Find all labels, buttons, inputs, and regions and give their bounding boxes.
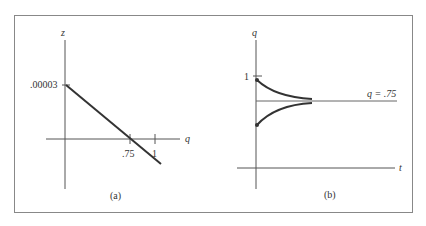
start-point-above	[255, 78, 259, 82]
figure: z q .00003 .75 1 (a) q t 1 q = .75 (b)	[0, 0, 426, 226]
z-line	[66, 85, 161, 164]
q-axis-label-b: q	[252, 27, 257, 38]
q-axis-label: q	[185, 133, 190, 144]
curve-from-above	[257, 80, 312, 99]
curve-from-below	[257, 103, 312, 125]
panel-a-caption: (a)	[110, 190, 121, 202]
start-point-below	[255, 123, 259, 127]
figure-frame	[15, 16, 413, 213]
panel-b: q t 1 q = .75 (b)	[237, 27, 402, 201]
q-tick-label-75: .75	[122, 148, 135, 159]
equilibrium-label: q = .75	[367, 88, 396, 99]
t-axis-label: t	[399, 162, 402, 173]
q-tick-label-1-b: 1	[244, 71, 249, 82]
panel-a: z q .00003 .75 1 (a)	[30, 27, 190, 202]
z-axis-label: z	[60, 27, 65, 38]
panel-b-caption: (b)	[324, 189, 336, 201]
z-tick-label: .00003	[30, 79, 58, 90]
